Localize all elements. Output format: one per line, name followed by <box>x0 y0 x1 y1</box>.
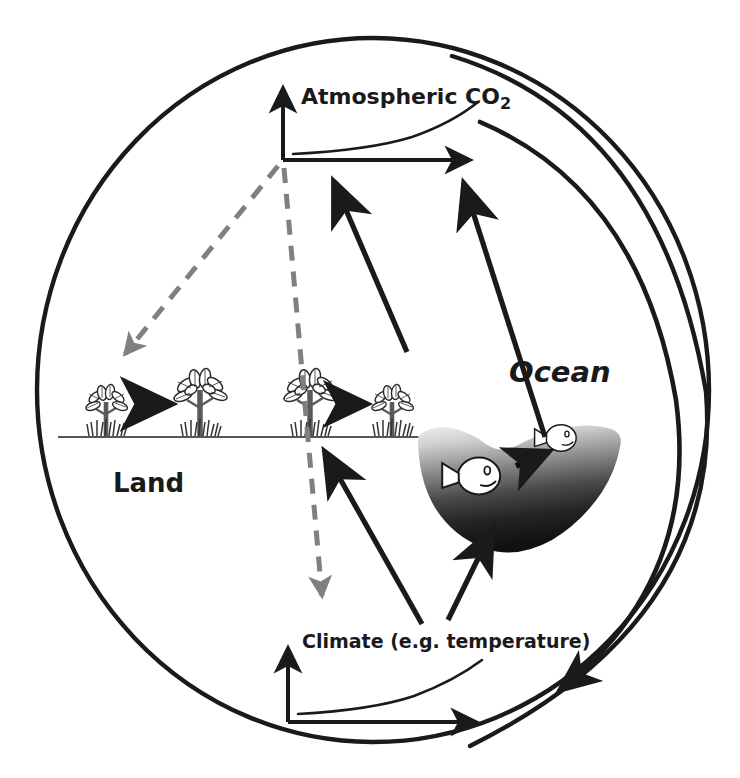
ocean-scene: Ocean <box>418 355 621 553</box>
diagram-canvas: Atmospheric CO2 Climate (e.g. temperatur… <box>0 0 740 778</box>
atmospheric-co2-label: Atmospheric CO2 <box>301 84 511 113</box>
climate-to-land-arrow <box>325 452 422 624</box>
vegetation-pair-1 <box>85 368 229 436</box>
climate-chart: Climate (e.g. temperature) <box>288 630 590 722</box>
ocean-to-co2-arrow <box>464 184 545 437</box>
climate-to-ocean-arrow <box>448 530 492 620</box>
land-to-co2-arrow <box>334 182 407 352</box>
ocean-body <box>418 425 621 552</box>
co2-to-land-dashed-arrow <box>125 166 278 354</box>
climate-curve <box>298 660 482 714</box>
carbon-cycle-diagram: Atmospheric CO2 Climate (e.g. temperatur… <box>0 0 740 778</box>
co2-curve <box>293 102 478 154</box>
atmospheric-co2-chart: Atmospheric CO2 <box>283 84 511 160</box>
land-scene: Land <box>58 368 432 498</box>
climate-label: Climate (e.g. temperature) <box>302 630 590 652</box>
land-label: Land <box>113 468 184 498</box>
